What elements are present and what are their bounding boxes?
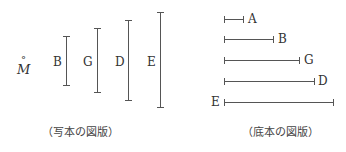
- right-label-g: G: [304, 54, 314, 66]
- right-label-b: B: [278, 33, 287, 45]
- left-label-b: B: [53, 56, 62, 68]
- right-label-d: D: [318, 75, 328, 87]
- symbol-m: M: [17, 64, 30, 76]
- left-label-g: G: [83, 56, 93, 68]
- left-label-e: E: [147, 56, 156, 68]
- right-label-e: E: [211, 96, 220, 108]
- right-bars: [224, 16, 334, 106]
- right-label-a: A: [248, 13, 257, 25]
- right-caption: （底本の図版）: [242, 127, 319, 139]
- left-label-d: D: [115, 56, 125, 68]
- left-caption: （写本の図版）: [42, 127, 119, 139]
